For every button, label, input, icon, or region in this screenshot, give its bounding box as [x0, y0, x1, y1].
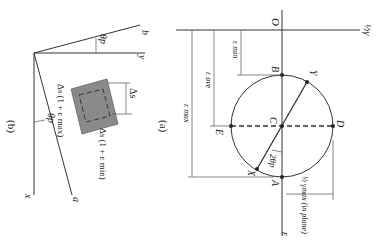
- point-C: [280, 124, 284, 128]
- theta-label-bottom: θp: [46, 113, 57, 123]
- eps-max-label: ε max: [182, 104, 191, 123]
- caption-a: (a): [157, 120, 170, 133]
- eps-min-label: ε min: [231, 41, 240, 58]
- point-A: [280, 175, 284, 179]
- epsilon-axis-label: ε: [280, 232, 291, 236]
- gamma-max-label: ½ γmax (in plane): [300, 176, 309, 234]
- theta-label-top: θp: [98, 34, 109, 44]
- label-b: b: [140, 30, 151, 35]
- label-C: C: [268, 117, 279, 124]
- theta-arrow-bottom: [34, 120, 45, 122]
- two-theta-label: 2θp: [268, 154, 278, 168]
- point-D: [331, 124, 335, 128]
- strain-element: [71, 79, 118, 134]
- caption-b: (b): [5, 120, 18, 133]
- axis-b: [34, 25, 140, 53]
- label-a: a: [71, 197, 82, 202]
- label-E: E: [214, 128, 225, 135]
- origin-label: O: [270, 18, 282, 26]
- gamma-axis-label: ½γ: [362, 24, 373, 37]
- label-x: x: [23, 193, 34, 199]
- panel-a: O ½γ ε B A C D E X Y 2θp ε min ε ave: [157, 10, 373, 236]
- panel-b: b y x a θp θp Δs Δs (1 + ε max) Δs (1 + …: [5, 25, 151, 202]
- label-B: B: [270, 66, 281, 72]
- label-Y: Y: [308, 70, 319, 77]
- two-theta-arrow: [272, 150, 282, 152]
- label-A: A: [270, 179, 281, 187]
- label-y: y: [137, 54, 148, 60]
- max-side-label: Δs (1 + ε max): [56, 84, 66, 137]
- label-D: D: [335, 119, 346, 128]
- min-side-label: Δs (1 + ε min): [98, 128, 108, 180]
- point-Y: [305, 80, 309, 84]
- eps-ave-label: ε ave: [204, 72, 213, 89]
- figure-canvas: b y x a θp θp Δs Δs (1 + ε max) Δs (1 + …: [0, 0, 384, 240]
- label-X: X: [246, 169, 257, 177]
- ds-label: Δs: [128, 88, 139, 98]
